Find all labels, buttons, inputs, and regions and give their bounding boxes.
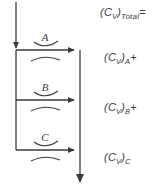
term-a-symbol-subscript: V: [116, 57, 121, 66]
branch-b: B: [16, 81, 74, 111]
term-b-operator: +: [130, 101, 137, 113]
term-a-operator: +: [130, 51, 137, 63]
term-b-symbol: C: [108, 101, 116, 113]
term-a-subscript: A: [125, 57, 130, 66]
branch-b-letter: B: [42, 81, 49, 93]
branch-c: C: [16, 131, 74, 161]
branch-a: A: [16, 31, 74, 61]
equation-term-a: (CV)A+: [104, 51, 137, 63]
branch-c-arc-lower: [31, 157, 60, 161]
term-b-symbol-subscript: V: [116, 107, 121, 116]
term-c-symbol: C: [108, 151, 116, 163]
term-b-subscript: B: [125, 107, 130, 116]
branch-c-letter: C: [41, 131, 49, 143]
equation-term-c: (CV)C: [104, 151, 131, 163]
term-a-symbol: C: [108, 51, 116, 63]
total-operator: =: [139, 6, 146, 18]
branch-a-letter: A: [41, 31, 49, 43]
total-symbol-subscript: V: [112, 12, 117, 21]
branch-a-arc-lower: [31, 57, 60, 61]
term-c-symbol-subscript: V: [116, 157, 121, 166]
series-flow-diagram: A B C: [0, 0, 163, 196]
equation-term-b: (CV)B+: [104, 101, 137, 113]
branch-b-arc-lower: [31, 107, 60, 111]
total-subscript: Total: [121, 12, 139, 21]
total-symbol: C: [104, 6, 112, 18]
figure-canvas: A B C (CV)Total= (CV)A+ (CV)B+ (CV)C: [0, 0, 163, 196]
term-c-subscript: C: [125, 157, 131, 166]
equation-total: (CV)Total=: [100, 6, 146, 18]
